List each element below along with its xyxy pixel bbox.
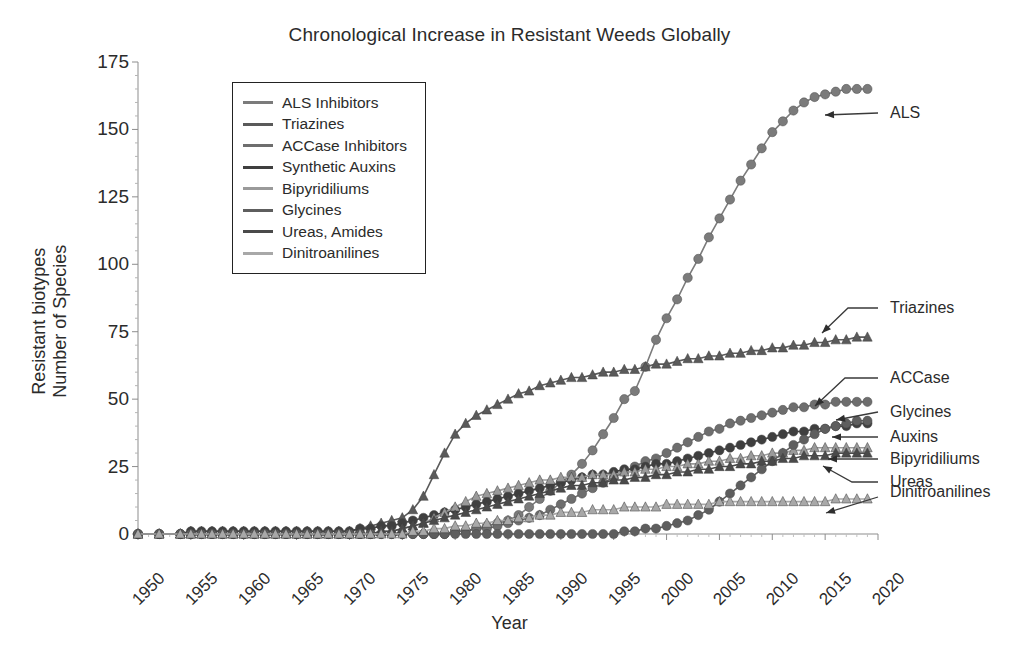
x-axis-tick: 1970 xyxy=(367,542,408,583)
x-axis-tick: 2005 xyxy=(737,542,778,583)
x-axis-title: Year xyxy=(0,613,1019,634)
x-axis-tick-label: 1975 xyxy=(393,569,434,610)
x-axis-tick-label: 2000 xyxy=(657,569,698,610)
legend-label: Ureas, Amides xyxy=(282,223,383,241)
y-axis-tick-label: 50 xyxy=(108,388,129,410)
x-axis-tick-label: 2015 xyxy=(815,569,856,610)
x-axis-tick: 2015 xyxy=(842,542,883,583)
chart-root: Chronological Increase in Resistant Weed… xyxy=(0,0,1019,661)
x-axis-tick-label: 2020 xyxy=(868,569,909,610)
x-axis-tick: 1955 xyxy=(208,542,249,583)
y-axis-title: Resistant biotypes Number of Species xyxy=(29,161,71,481)
legend-item[interactable]: ALS Inhibitors xyxy=(243,92,417,114)
y-axis-tick-label: 0 xyxy=(118,523,129,545)
y-axis-tick-label: 125 xyxy=(97,186,129,208)
x-axis-tick: 1965 xyxy=(314,542,355,583)
series-callout-label: Glycines xyxy=(890,403,951,421)
legend-swatch-line-icon xyxy=(243,252,273,255)
legend-item[interactable]: Synthetic Auxins xyxy=(243,157,417,179)
series-callout-label: Auxins xyxy=(890,428,938,446)
legend-label: Dinitroanilines xyxy=(282,244,379,262)
legend-item[interactable]: ACCase Inhibitors xyxy=(243,135,417,157)
y-axis-tick-label: 150 xyxy=(97,118,129,140)
legend-item[interactable]: Ureas, Amides xyxy=(243,221,417,243)
x-axis-tick-label: 1980 xyxy=(445,569,486,610)
legend-item[interactable]: Dinitroanilines xyxy=(243,243,417,265)
x-axis-tick-label: 1960 xyxy=(234,569,275,610)
legend-item[interactable]: Triazines xyxy=(243,114,417,136)
legend-swatch-line-icon xyxy=(243,166,273,169)
legend-label: Synthetic Auxins xyxy=(282,158,396,176)
series-callout-label: ACCase xyxy=(890,369,950,387)
series-callout-label: Dinitroanilines xyxy=(890,483,991,501)
legend-label: Glycines xyxy=(282,201,341,219)
page-title: Chronological Increase in Resistant Weed… xyxy=(0,24,1019,46)
x-axis-tick: 1995 xyxy=(631,542,672,583)
x-axis-tick: 2010 xyxy=(789,542,830,583)
legend-label: ACCase Inhibitors xyxy=(282,137,407,155)
y-axis-tick-label: 75 xyxy=(108,321,129,343)
x-axis-tick: 1975 xyxy=(419,542,460,583)
x-axis-tick: 1980 xyxy=(472,542,513,583)
x-axis-tick-label: 1995 xyxy=(604,569,645,610)
x-axis-tick: 2020 xyxy=(895,542,936,583)
legend-swatch-line-icon xyxy=(243,123,273,126)
x-axis-tick-label: 2005 xyxy=(710,569,751,610)
y-axis-title-line1: Resistant biotypes xyxy=(29,161,50,481)
legend-swatch-line-icon xyxy=(243,187,273,190)
series-callout-label: Triazines xyxy=(890,299,954,317)
x-axis-tick-label: 2010 xyxy=(763,569,804,610)
x-axis-tick-label: 1955 xyxy=(181,569,222,610)
x-axis-tick: 1985 xyxy=(525,542,566,583)
x-axis-tick-label: 1950 xyxy=(128,569,169,610)
legend-swatch-line-icon xyxy=(243,101,273,104)
legend-item[interactable]: Glycines xyxy=(243,200,417,222)
x-axis-tick-label: 1970 xyxy=(340,569,381,610)
y-axis-title-line2: Number of Species xyxy=(50,161,71,481)
series-callout-label: Bipyridiliums xyxy=(890,450,980,468)
series-dinitroanilines xyxy=(133,494,872,538)
series-callout-label: ALS xyxy=(890,104,920,122)
legend: ALS InhibitorsTriazinesACCase Inhibitors… xyxy=(232,82,426,274)
legend-label: Triazines xyxy=(282,115,344,133)
y-axis-tick-label: 100 xyxy=(97,253,129,275)
y-axis-tick-label: 175 xyxy=(97,51,129,73)
x-axis-tick: 1990 xyxy=(578,542,619,583)
x-axis-tick: 1960 xyxy=(261,542,302,583)
y-axis-tick-label: 25 xyxy=(108,456,129,478)
x-axis-tick-label: 1965 xyxy=(287,569,328,610)
x-axis-tick-label: 1990 xyxy=(551,569,592,610)
legend-swatch-line-icon xyxy=(243,144,273,147)
legend-label: ALS Inhibitors xyxy=(282,94,379,112)
legend-swatch-line-icon xyxy=(243,230,273,233)
legend-label: Bipyridiliums xyxy=(282,180,369,198)
x-axis-tick: 2000 xyxy=(684,542,725,583)
x-axis-tick-label: 1985 xyxy=(498,569,539,610)
legend-swatch-line-icon xyxy=(243,209,273,212)
x-axis-tick: 1950 xyxy=(155,542,196,583)
legend-item[interactable]: Bipyridiliums xyxy=(243,178,417,200)
